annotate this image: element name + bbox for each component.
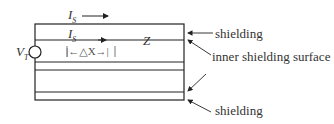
is-top-label: IS [68,8,76,25]
shielding-bottom-label: shielding [215,104,263,117]
inner-surface-label: inner shielding surface [212,50,330,63]
vt-label: VT [16,45,28,62]
pointer-shielding-bottom [188,100,211,112]
voltage-source-icon [29,46,41,58]
pointer-inner-surface-bottom [188,74,206,91]
delta-x-label: |←△X→| [66,46,109,57]
pointer-inner-surface [188,40,211,55]
is-inner-label: IS [68,27,76,44]
shielding-top-label: shielding [215,27,263,40]
z-label: Z [143,34,150,47]
